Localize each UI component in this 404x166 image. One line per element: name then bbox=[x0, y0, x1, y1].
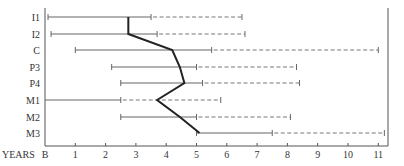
x-tick-label: 7 bbox=[255, 149, 260, 160]
row-label: I1 bbox=[32, 12, 40, 23]
row-label: P3 bbox=[29, 62, 40, 73]
range-chart: B1234567891011YEARSI1I2CP3P4M1M2M3 bbox=[0, 0, 404, 166]
row-label: I2 bbox=[32, 29, 40, 40]
row-label: M3 bbox=[26, 128, 40, 139]
x-tick-label: 8 bbox=[285, 149, 290, 160]
row-label: M2 bbox=[26, 112, 40, 123]
x-tick-label: B bbox=[42, 149, 49, 160]
x-tick-label: 6 bbox=[224, 149, 229, 160]
x-tick-label: 2 bbox=[103, 149, 108, 160]
x-tick-label: 9 bbox=[315, 149, 320, 160]
row-label: C bbox=[33, 45, 40, 56]
x-tick-label: 10 bbox=[343, 149, 353, 160]
row-label: M1 bbox=[26, 95, 40, 106]
x-tick-label: 11 bbox=[373, 149, 383, 160]
row-label: P4 bbox=[29, 78, 40, 89]
x-tick-label: 1 bbox=[73, 149, 78, 160]
x-axis-title: YEARS bbox=[2, 149, 35, 160]
x-tick-label: 4 bbox=[164, 149, 169, 160]
x-tick-label: 5 bbox=[194, 149, 199, 160]
x-tick-label: 3 bbox=[133, 149, 138, 160]
